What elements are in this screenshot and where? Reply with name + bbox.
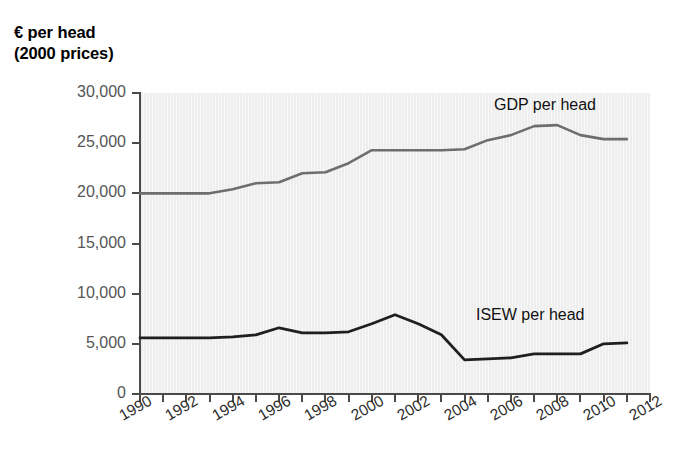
series-label-gdp: GDP per head bbox=[494, 96, 596, 114]
chart-figure: € per head (2000 prices) 30,00025,00020,… bbox=[0, 0, 680, 463]
series-lines bbox=[0, 0, 680, 463]
series-line-gdp bbox=[140, 125, 627, 193]
series-label-isew: ISEW per head bbox=[476, 306, 585, 324]
